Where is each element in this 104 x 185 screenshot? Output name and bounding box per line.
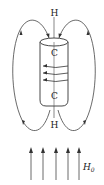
bottom-pole-label: H [51, 120, 59, 130]
diagram-canvas: H C C H H0 [0, 0, 104, 185]
applied-field-label: H0 [82, 162, 95, 173]
top-pole-label: H [51, 8, 59, 18]
cylinder-top-label: C [51, 48, 58, 58]
cylinder-bottom-label: C [51, 91, 58, 101]
applied-field-arrows [29, 147, 81, 180]
